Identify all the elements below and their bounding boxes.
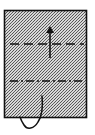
paper-rectangle: [5, 11, 87, 118]
diagram-svg: [0, 0, 95, 135]
folding-diagram: [0, 0, 95, 135]
